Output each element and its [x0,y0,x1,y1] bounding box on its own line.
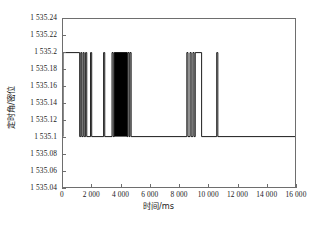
x-axis-tick-label: 10 000 [198,190,219,199]
signal-trace [63,53,295,137]
x-axis-tick-label: 0 [60,190,64,199]
y-axis-tick-mark [62,35,66,36]
x-axis-tick-mark [91,184,92,188]
y-axis-tick-label: 1 535.16 [30,82,57,90]
x-axis-tick-mark [150,184,151,188]
y-axis-tick-label: 1 535.24 [30,14,57,22]
x-axis-tick-label: 2 000 [83,190,100,199]
plot-area [62,18,296,188]
x-axis-tick-mark [238,184,239,188]
x-axis-tick-mark [62,184,63,188]
y-axis-tick-mark [62,103,66,104]
y-axis-tick-mark [62,188,66,189]
x-axis-tick-label: 14 000 [256,190,277,199]
x-axis-tick-label: 4 000 [112,190,129,199]
figure-caption [0,225,317,232]
y-axis-tick-mark [62,69,66,70]
data-series-timing-angle [63,19,295,187]
y-axis-tick-label: 1 535.18 [30,65,57,73]
y-axis-tick-mark [62,137,66,138]
x-axis-tick-mark [267,184,268,188]
y-axis-tick-mark [62,171,66,172]
x-axis-tick-label: 12 000 [227,190,248,199]
y-axis-tick-label: 1 535.22 [30,31,57,39]
x-axis-tick-mark [179,184,180,188]
y-axis-tick-mark [62,120,66,121]
x-axis-tick-label: 16 000 [286,190,307,199]
y-axis-tick-mark [62,18,66,19]
y-axis-tick-label: 1 535.1 [34,133,57,141]
y-axis-tick-label: 1 535.08 [30,150,57,158]
y-axis-tick-mark [62,154,66,155]
x-axis-title: 时间/ms [0,201,317,211]
x-axis-tick-mark [296,184,297,188]
y-axis-tick-label: 1 535.14 [30,99,57,107]
x-axis-tick-mark [121,184,122,188]
y-axis-title: 定时角/密位 [7,56,16,160]
y-axis-tick-label: 1 535.12 [30,116,57,124]
dense-pulse-band [114,53,127,137]
y-axis-tick-mark [62,52,66,53]
y-axis-tick-mark [62,86,66,87]
x-axis-tick-label: 6 000 [141,190,158,199]
x-axis-tick-mark [208,184,209,188]
figure-timing-angle-chart: 1 535.041 535.061 535.081 535.11 535.121… [0,0,317,232]
y-axis-tick-label: 1 535.2 [34,48,57,56]
x-axis-tick-label: 8 000 [170,190,187,199]
y-axis-tick-label: 1 535.06 [30,167,57,175]
